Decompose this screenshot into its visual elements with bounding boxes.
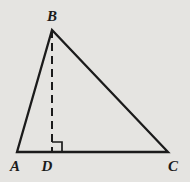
vertex-label-b: B <box>46 8 57 24</box>
paper-background <box>0 0 190 182</box>
vertex-label-c: C <box>168 158 179 174</box>
vertex-label-a: A <box>9 158 20 174</box>
geometry-figure: A B C D <box>0 0 190 182</box>
triangle-diagram-svg: A B C D <box>0 0 190 182</box>
vertex-label-d: D <box>41 158 53 174</box>
